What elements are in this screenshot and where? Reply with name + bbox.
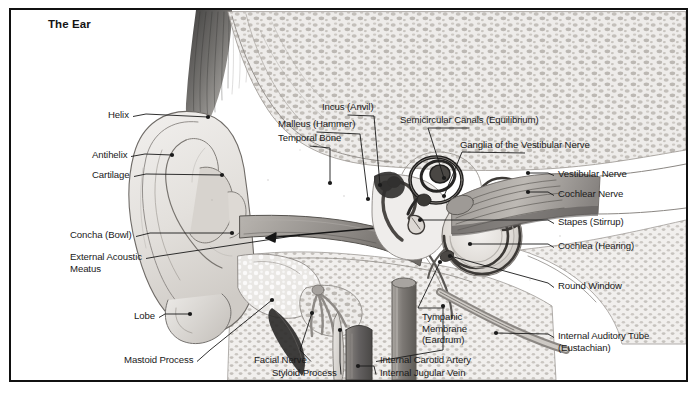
page-title: The Ear [48, 18, 91, 30]
label-lobe: Lobe [134, 310, 155, 322]
label-antihelix: Antihelix [92, 149, 127, 161]
label-styloid-process: Styloid Process [272, 367, 337, 379]
label-text-layer: The Ear HelixAntihelixCartilageConcha (B… [0, 0, 700, 402]
label-temporal-bone: Temporal Bone [278, 132, 341, 144]
label-semicircular-canals: Semicircular Canals (Equilibrium) [400, 114, 539, 126]
ear-diagram-page: The Ear HelixAntihelixCartilageConcha (B… [0, 0, 700, 402]
label-internal-jugular-vein: Internal Jugular Vein [380, 367, 465, 379]
label-ganglia-vestibular-nerve: Ganglia of the Vestibular Nerve [460, 139, 590, 151]
label-vestibular-nerve: Vestibular Nerve [558, 168, 627, 180]
label-internal-carotid-artery: Internal Carotid Artery [380, 354, 471, 366]
label-cochlear-nerve: Cochlear Nerve [558, 188, 623, 200]
label-mastoid-process: Mastoid Process [124, 354, 193, 366]
label-internal-auditory-tube: Internal Auditory Tube(Eustachian) [558, 330, 649, 353]
label-facial-nerve: Facial Nerve [254, 354, 307, 366]
label-round-window: Round Window [558, 280, 622, 292]
label-helix: Helix [108, 109, 129, 121]
label-incus-anvil: Incus (Anvil) [322, 101, 373, 113]
label-malleus-hammer: Malleus (Hammer) [278, 118, 355, 130]
label-cartilage: Cartilage [92, 169, 130, 181]
label-cochlea-hearing: Cochlea (Hearing) [558, 240, 634, 252]
label-tympanic-membrane: TympanicMembrane(Eardrum) [422, 311, 467, 346]
label-external-acoustic-meatus: External AcousticMeatus [70, 251, 142, 274]
label-stapes-stirrup: Stapes (Stirrup) [558, 216, 624, 228]
label-concha-bowl: Concha (Bowl) [70, 229, 132, 241]
